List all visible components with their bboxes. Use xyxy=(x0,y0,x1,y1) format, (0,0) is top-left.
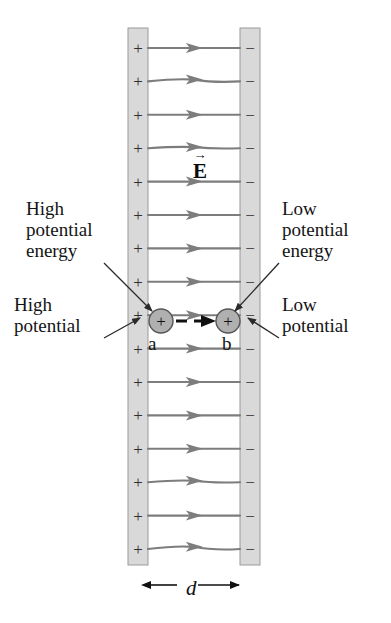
negative-charge-sign: − xyxy=(245,273,255,292)
separation-distance-label: d xyxy=(186,576,197,601)
high-potential-energy-label-line-1: potential xyxy=(26,219,92,240)
positive-charge-sign: + xyxy=(133,72,143,91)
charge-sign: + xyxy=(156,312,166,331)
positive-charge-sign: + xyxy=(133,173,143,192)
positive-charge-sign: + xyxy=(133,340,143,359)
low-potential-energy-label: Lowpotentialenergy xyxy=(282,198,348,261)
positive-charge-sign: + xyxy=(133,139,143,158)
high-potential-energy-label-line-2: energy xyxy=(26,240,92,261)
negative-charge-sign: − xyxy=(245,206,255,225)
positive-charge-sign: + xyxy=(133,106,143,125)
positive-charge-sign: + xyxy=(133,39,143,58)
capacitor-figure: +−+−+−+−+−+−+−+−+−+−+−+−+−+−+−+− ++ High… xyxy=(0,0,391,623)
capacitor-plates xyxy=(128,28,260,565)
high-potential-energy-label: Highpotentialenergy xyxy=(26,198,92,261)
point-b-label: b xyxy=(222,333,232,355)
low-potential-label: Lowpotential xyxy=(282,294,348,336)
low-potential-label-line-0: Low xyxy=(282,294,348,315)
positive-charge-sign: + xyxy=(133,273,143,292)
positive-charge-sign: + xyxy=(133,239,143,258)
electric-field-lines xyxy=(148,43,240,552)
negative-charge-sign: − xyxy=(245,340,255,359)
positive-charge-sign: + xyxy=(133,540,143,559)
negative-charge-sign: − xyxy=(245,540,255,559)
negative-charge-sign: − xyxy=(245,106,255,125)
low-potential-energy-label-line-2: energy xyxy=(282,240,348,261)
negative-charge-sign: − xyxy=(245,440,255,459)
vector-accent-arrow: → xyxy=(193,152,207,158)
charge-sign: + xyxy=(223,312,233,331)
positive-charge-sign: + xyxy=(133,373,143,392)
electric-field-symbol: E xyxy=(193,159,207,183)
negative-charge-sign: − xyxy=(245,239,255,258)
point-a-label: a xyxy=(148,333,156,355)
negative-charge-sign: − xyxy=(245,373,255,392)
negative-charge-sign: − xyxy=(245,139,255,158)
high-potential-label: Highpotential xyxy=(14,294,80,336)
negative-charge-sign: − xyxy=(245,507,255,526)
negative-charge-sign: − xyxy=(245,306,255,325)
negative-charge-sign: − xyxy=(245,173,255,192)
negative-charge-sign: − xyxy=(245,39,255,58)
high-potential-label-line-1: potential xyxy=(14,315,80,336)
low-potential-label-line-1: potential xyxy=(282,315,348,336)
low-potential-energy-label-line-0: Low xyxy=(282,198,348,219)
negative-charge-sign: − xyxy=(245,72,255,91)
high-potential-label-line-0: High xyxy=(14,294,80,315)
positive-charge-sign: + xyxy=(133,206,143,225)
positive-charge-sign: + xyxy=(133,306,143,325)
low-potential-energy-label-line-1: potential xyxy=(282,219,348,240)
negative-charge-sign: − xyxy=(245,473,255,492)
high-potential-energy-label-line-0: High xyxy=(26,198,92,219)
positive-charge-sign: + xyxy=(133,507,143,526)
negative-charge-sign: − xyxy=(245,406,255,425)
positive-charge-sign: + xyxy=(133,440,143,459)
positive-charge-sign: + xyxy=(133,473,143,492)
displacement-arrowhead xyxy=(201,315,216,327)
positive-charge-sign: + xyxy=(133,406,143,425)
electric-field-label: →E xyxy=(193,152,207,184)
